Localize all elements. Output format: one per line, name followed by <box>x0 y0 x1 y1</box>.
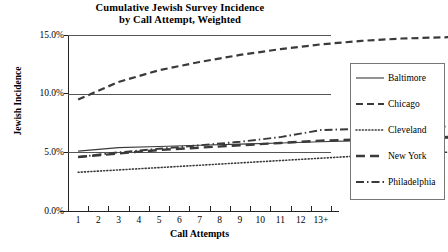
x-tick-label-13plus: 13+ <box>309 215 333 225</box>
legend-item-chicago[interactable]: Chicago <box>351 96 446 112</box>
legend-item-philadelphia[interactable]: Philadelphia <box>351 174 446 190</box>
x-tick-mark <box>68 206 69 211</box>
x-tick-mark <box>169 206 170 211</box>
legend-item-baltimore[interactable]: Baltimore <box>351 70 446 86</box>
y-tick-label-10: 10.0% <box>4 88 64 98</box>
legend-label: Baltimore <box>388 73 426 84</box>
x-axis-line <box>60 211 339 212</box>
x-tick-mark <box>129 206 130 211</box>
x-tick-mark <box>149 206 150 211</box>
legend-line-swatch-dotted <box>355 124 385 136</box>
chart-container: Cumulative Jewish Survey Incidence by Ca… <box>0 0 448 252</box>
plot-area <box>68 35 331 211</box>
x-tick-mark <box>331 206 332 211</box>
legend: BaltimoreChicagoClevelandNew YorkPhilade… <box>350 63 445 200</box>
x-tick-mark <box>189 206 190 211</box>
x-tick-mark <box>210 206 211 211</box>
chart-title-line-1: Cumulative Jewish Survey Incidence <box>96 2 265 13</box>
y-tick-label-0: 0.0% <box>4 206 64 216</box>
x-tick-mark <box>88 206 89 211</box>
x-tick-mark <box>250 206 251 211</box>
x-axis-label: Call Attempts <box>68 228 331 239</box>
legend-line-swatch-longdash <box>355 150 385 162</box>
legend-line-swatch-dashdot <box>355 176 385 188</box>
legend-line-swatch-solid <box>355 72 385 84</box>
series-lines <box>68 35 331 211</box>
legend-item-new-york[interactable]: New York <box>351 148 446 164</box>
legend-label: New York <box>388 151 427 162</box>
legend-label: Chicago <box>388 99 420 110</box>
x-tick-mark <box>270 206 271 211</box>
x-tick-mark <box>291 206 292 211</box>
legend-item-cleveland[interactable]: Cleveland <box>351 122 446 138</box>
legend-label: Philadelphia <box>388 177 436 188</box>
y-tick-label-5: 5.0% <box>4 147 64 157</box>
x-tick-mark <box>108 206 109 211</box>
legend-label: Cleveland <box>388 125 427 136</box>
y-tick-label-15: 15.0% <box>4 30 64 40</box>
legend-line-swatch-dashed <box>355 98 385 110</box>
x-tick-mark <box>311 206 312 211</box>
x-tick-mark <box>230 206 231 211</box>
y-axis-ticks: 15.0% 10.0% 5.0% 0.0% <box>0 0 64 252</box>
